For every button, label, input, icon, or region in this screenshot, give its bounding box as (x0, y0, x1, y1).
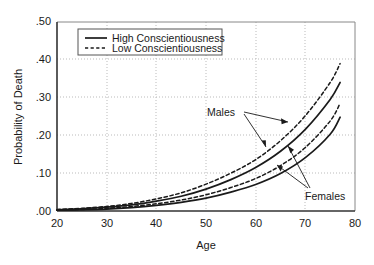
annotation-females-label: Females (305, 190, 345, 202)
chart-figure: .50 .40 .30 .20 .10 .00 20 30 40 50 60 7… (0, 0, 374, 265)
y-tick-020: .20 (36, 129, 51, 141)
legend-label-low: Low Conscientiousness (112, 42, 222, 54)
y-tick-010: .10 (36, 167, 51, 179)
x-tick-50: 50 (200, 217, 212, 229)
probability-of-death-line-chart: .50 .40 .30 .20 .10 .00 20 30 40 50 60 7… (0, 0, 374, 265)
annotation-males-label: Males (207, 106, 235, 118)
x-tick-70: 70 (299, 217, 311, 229)
x-tick-30: 30 (101, 217, 113, 229)
y-axis-title: Probability of Death (12, 69, 24, 165)
y-tick-050: .50 (36, 15, 51, 27)
y-tick-030: .30 (36, 91, 51, 103)
x-tick-20: 20 (51, 217, 63, 229)
chart-legend: High Conscientiousness Low Conscientious… (78, 29, 225, 55)
x-axis-title: Age (196, 239, 216, 251)
y-tick-040: .40 (36, 53, 51, 65)
x-tick-60: 60 (250, 217, 262, 229)
y-tick-000: .00 (36, 205, 51, 217)
x-tick-80: 80 (349, 217, 361, 229)
x-tick-40: 40 (150, 217, 162, 229)
